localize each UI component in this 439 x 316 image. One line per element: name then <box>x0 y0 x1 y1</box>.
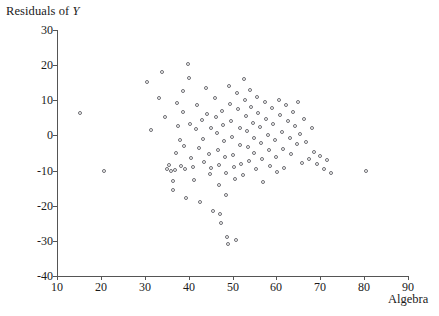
data-point <box>214 115 218 119</box>
y-tick-mark <box>53 135 57 136</box>
data-point <box>288 136 292 140</box>
data-point <box>157 96 161 100</box>
data-point <box>183 167 187 171</box>
data-point <box>224 193 228 197</box>
data-point <box>102 169 106 173</box>
x-tick-label: 70 <box>305 281 335 293</box>
data-point <box>282 166 286 170</box>
data-point <box>252 136 256 140</box>
data-point <box>270 106 274 110</box>
x-tick-label: 50 <box>218 281 248 293</box>
data-point <box>167 163 171 167</box>
data-point <box>235 91 239 95</box>
data-point <box>232 165 236 169</box>
data-point <box>300 161 304 165</box>
data-point <box>189 156 193 160</box>
y-axis-line <box>57 30 58 277</box>
data-point <box>231 153 235 157</box>
data-point <box>165 167 169 171</box>
data-point <box>244 114 248 118</box>
data-point <box>197 146 201 150</box>
data-point <box>217 163 221 167</box>
y-tick-label-wrap: -10 <box>0 165 53 177</box>
data-point <box>310 126 314 130</box>
data-point <box>249 105 253 109</box>
data-point <box>202 160 206 164</box>
data-point <box>207 152 211 156</box>
data-point <box>233 177 237 181</box>
data-point <box>220 109 224 113</box>
data-point <box>275 170 279 174</box>
data-point <box>195 103 199 107</box>
data-point <box>307 157 311 161</box>
data-point <box>217 183 221 187</box>
data-point <box>225 235 229 239</box>
data-point <box>256 111 260 115</box>
data-point <box>312 150 316 154</box>
data-point <box>243 98 247 102</box>
data-point <box>252 151 256 155</box>
data-point <box>293 124 297 128</box>
data-point <box>280 130 284 134</box>
data-point <box>329 171 333 175</box>
y-tick-mark <box>53 241 57 242</box>
data-point <box>176 124 180 128</box>
data-point <box>211 209 215 213</box>
data-point <box>171 188 175 192</box>
y-tick-label-wrap: -20 <box>0 200 53 212</box>
data-point <box>248 88 252 92</box>
data-point <box>145 80 149 84</box>
data-point <box>230 135 234 139</box>
data-point <box>298 132 302 136</box>
data-point <box>188 122 192 126</box>
x-tick-label: 10 <box>42 281 72 293</box>
data-point <box>296 100 300 104</box>
data-point <box>221 123 225 127</box>
data-point <box>322 167 326 171</box>
data-point <box>251 121 255 125</box>
data-point <box>318 154 322 158</box>
data-point <box>200 118 204 122</box>
data-point <box>175 101 179 105</box>
data-point <box>254 167 258 171</box>
data-point <box>268 164 272 168</box>
data-point <box>247 159 251 163</box>
x-tick-label: 40 <box>174 281 204 293</box>
data-point <box>242 77 246 81</box>
plot-area: 3020100-10-20-30-40 102030405060708090 <box>0 0 439 316</box>
data-point <box>181 110 185 114</box>
data-point <box>259 141 263 145</box>
data-point <box>191 165 195 169</box>
data-point <box>78 111 82 115</box>
data-point <box>236 107 240 111</box>
data-point <box>187 76 191 80</box>
data-point <box>173 168 177 172</box>
data-point <box>238 126 242 130</box>
y-tick-label-wrap: -30 <box>0 235 53 247</box>
y-tick-label: 20 <box>9 59 53 71</box>
y-tick-mark <box>53 171 57 172</box>
data-point <box>271 122 275 126</box>
data-point <box>234 238 238 242</box>
y-tick-mark <box>53 206 57 207</box>
data-point <box>222 139 226 143</box>
y-tick-label: -10 <box>9 165 53 177</box>
data-point <box>261 180 265 184</box>
data-point <box>201 137 205 141</box>
x-tick-label: 30 <box>130 281 160 293</box>
data-point <box>223 155 227 159</box>
data-point <box>304 140 308 144</box>
data-point <box>163 115 167 119</box>
y-tick-mark <box>53 65 57 66</box>
data-point <box>239 162 243 166</box>
data-point <box>229 119 233 123</box>
data-point <box>209 126 213 130</box>
data-point <box>302 117 306 121</box>
y-tick-label: 30 <box>9 24 53 36</box>
y-tick-label: 0 <box>9 129 53 141</box>
data-point <box>258 125 262 129</box>
data-point <box>264 117 268 121</box>
data-point <box>238 143 242 147</box>
data-point <box>171 179 175 183</box>
data-point <box>219 221 223 225</box>
